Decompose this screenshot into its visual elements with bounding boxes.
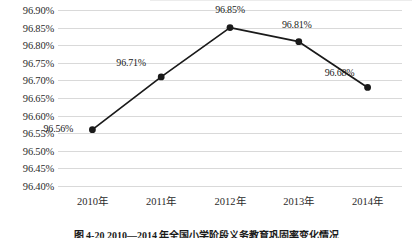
- x-axis-tick-label: 2012年: [215, 193, 246, 208]
- data-point-label: 96.81%: [282, 18, 312, 29]
- data-point-marker: [158, 73, 165, 80]
- y-axis-tick-label: 96.75%: [2, 57, 54, 68]
- y-axis-tick-label: 96.70%: [2, 75, 54, 86]
- y-axis-tick-label: 96.65%: [2, 93, 54, 104]
- x-axis-tick-label: 2013年: [283, 193, 314, 208]
- y-axis-tick-label: 96.90%: [2, 5, 54, 16]
- y-axis-tick-label: 96.50%: [2, 145, 54, 156]
- data-point-marker: [295, 38, 302, 45]
- top-edge-artifact: [150, 0, 412, 1]
- line-chart: 96.90%96.85%96.80%96.75%96.70%96.65%96.6…: [0, 0, 413, 238]
- y-axis-tick-label: 96.45%: [2, 163, 54, 174]
- y-axis-tick-label: 96.60%: [2, 110, 54, 121]
- x-axis-tick-label: 2010年: [77, 193, 108, 208]
- plot-area: 96.90%96.85%96.80%96.75%96.70%96.65%96.6…: [58, 10, 402, 206]
- data-point-marker: [227, 24, 234, 31]
- data-series-line: [58, 10, 402, 206]
- figure-caption: 图 4-20 2010—2014 年全国小学阶段义务教育巩固率变化情况: [0, 230, 413, 238]
- data-point-marker: [89, 126, 96, 133]
- y-axis-tick-label: 96.40%: [2, 181, 54, 192]
- data-point-label: 96.71%: [116, 56, 146, 67]
- x-axis-tick-label: 2014年: [352, 193, 383, 208]
- data-point-label: 96.56%: [44, 122, 74, 133]
- data-point-marker: [364, 84, 371, 91]
- data-point-label: 96.68%: [325, 67, 355, 78]
- y-axis-tick-label: 96.85%: [2, 22, 54, 33]
- data-point-label: 96.85%: [215, 3, 245, 14]
- y-axis-tick-label: 96.80%: [2, 40, 54, 51]
- x-axis-tick-label: 2011年: [146, 193, 177, 208]
- series-polyline: [92, 28, 367, 130]
